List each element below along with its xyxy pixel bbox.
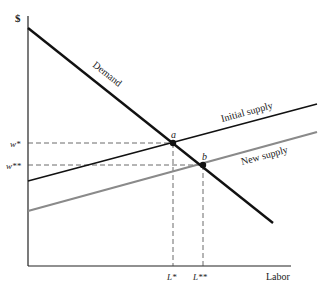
y-axis-label: $ — [15, 12, 21, 24]
demand-label: Demand — [91, 59, 124, 89]
labor-market-diagram: $ Labor Demand Initial supply New supply… — [0, 0, 327, 284]
point-a — [170, 140, 176, 146]
w-star-label: w* — [10, 139, 21, 149]
initial-supply-label: Initial supply — [220, 100, 274, 124]
point-a-label: a — [171, 129, 176, 140]
x-axis-label: Labor — [266, 271, 291, 282]
l-star-label: L* — [166, 272, 177, 282]
w-star-star-label: w** — [6, 161, 22, 171]
l-star-star-label: L** — [192, 272, 208, 282]
point-b — [200, 162, 206, 168]
point-b-label: b — [202, 151, 207, 162]
